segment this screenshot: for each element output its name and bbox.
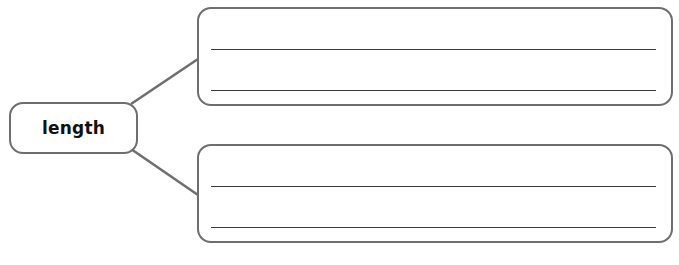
writing-line-top-2[interactable] — [211, 90, 656, 91]
connector-bottom — [131, 149, 198, 195]
writing-line-top-1[interactable] — [211, 49, 656, 50]
writing-line-bottom-1[interactable] — [211, 186, 656, 187]
connector-top — [131, 59, 198, 104]
writing-line-bottom-2[interactable] — [211, 227, 656, 228]
answer-box-top — [197, 7, 673, 106]
answer-box-bottom — [197, 144, 673, 243]
center-node: length — [9, 102, 138, 154]
center-node-label: length — [42, 118, 105, 138]
